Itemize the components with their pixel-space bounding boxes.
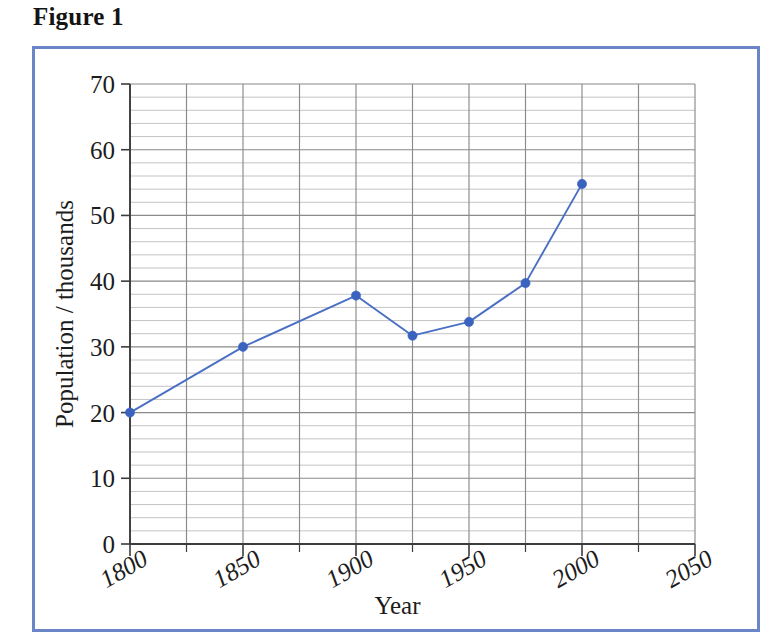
figure-panel bbox=[32, 46, 760, 632]
figure-caption: Figure 1 bbox=[33, 2, 124, 32]
